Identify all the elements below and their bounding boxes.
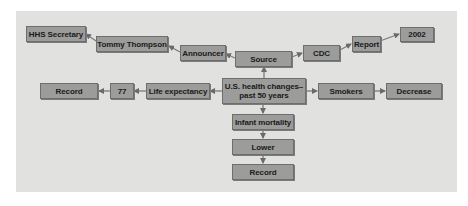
node-center-topic: U.S. health changes– past 50 years xyxy=(222,78,306,104)
node-cdc: CDC xyxy=(303,45,340,61)
node-77: 77 xyxy=(110,83,134,99)
node-lower: Lower xyxy=(232,139,294,155)
node-report: Report xyxy=(352,36,381,52)
node-hhs-secretary: HHS Secretary xyxy=(26,26,86,42)
node-source: Source xyxy=(235,51,292,67)
node-tommy-thompson: Tommy Thompson xyxy=(96,36,168,52)
node-life-expectancy: Life expectancy xyxy=(146,83,210,99)
node-record-left: Record xyxy=(40,83,98,99)
node-announcer: Announcer xyxy=(180,45,226,61)
node-2002: 2002 xyxy=(400,27,434,42)
node-smokers: Smokers xyxy=(318,83,374,99)
node-record-bottom: Record xyxy=(232,164,294,180)
node-infant-mortality: Infant mortality xyxy=(232,114,294,130)
node-decrease: Decrease xyxy=(386,83,442,99)
